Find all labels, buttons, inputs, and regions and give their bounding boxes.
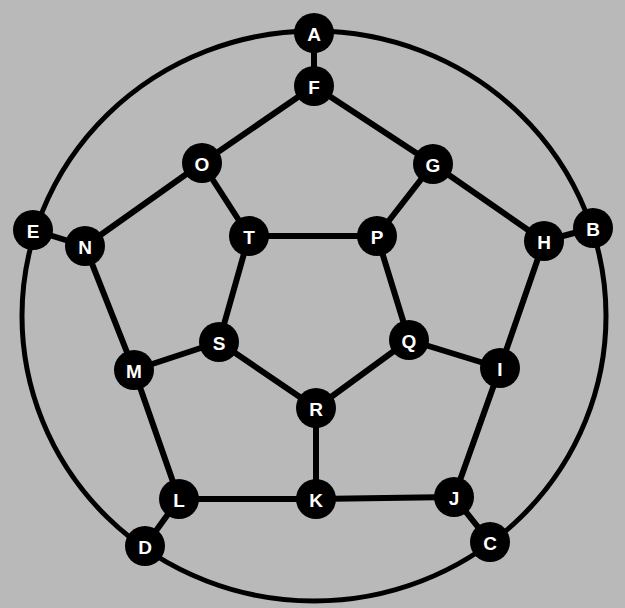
node-label: S xyxy=(213,333,226,354)
node-k: K xyxy=(296,479,336,519)
edge-l-m xyxy=(134,370,179,499)
node-label: C xyxy=(483,533,497,554)
node-h: H xyxy=(524,221,564,261)
node-label: G xyxy=(426,155,441,176)
node-label: Q xyxy=(402,331,417,352)
node-n: N xyxy=(65,226,105,266)
node-q: Q xyxy=(389,320,429,360)
node-label: J xyxy=(449,488,460,509)
node-label: O xyxy=(195,154,210,175)
node-o: O xyxy=(182,143,222,183)
edge-h-i xyxy=(500,241,544,368)
edge-f-g xyxy=(314,86,433,164)
edge-o-f xyxy=(202,86,314,163)
node-label: N xyxy=(78,237,92,258)
node-i: I xyxy=(480,348,520,388)
node-j: J xyxy=(434,477,474,517)
node-l: L xyxy=(159,479,199,519)
node-label: M xyxy=(126,361,142,382)
node-label: T xyxy=(243,227,255,248)
node-g: G xyxy=(413,144,453,184)
node-a: A xyxy=(294,13,334,53)
edge-i-j xyxy=(454,368,500,497)
node-label: A xyxy=(307,24,321,45)
edge-g-h xyxy=(433,164,544,241)
node-p: P xyxy=(357,216,397,256)
node-s: S xyxy=(199,322,239,362)
node-label: R xyxy=(309,399,323,420)
node-label: P xyxy=(371,227,384,248)
node-label: I xyxy=(497,359,502,380)
node-label: F xyxy=(308,77,320,98)
node-r: R xyxy=(296,388,336,428)
node-e: E xyxy=(13,210,53,250)
node-label: L xyxy=(173,490,185,511)
dodecahedron-graph: ABCDEFGHIJKLMNOPQRST xyxy=(0,0,625,608)
node-m: M xyxy=(114,350,154,390)
node-c: C xyxy=(470,522,510,562)
node-t: T xyxy=(229,216,269,256)
node-label: H xyxy=(537,232,551,253)
node-label: D xyxy=(138,537,152,558)
node-label: K xyxy=(309,490,323,511)
node-label: B xyxy=(586,219,600,240)
edge-n-o xyxy=(85,163,202,246)
node-label: E xyxy=(27,221,40,242)
edge-j-k xyxy=(316,497,454,499)
node-f: F xyxy=(294,66,334,106)
node-b: B xyxy=(573,208,613,248)
edges-group xyxy=(33,33,593,546)
node-d: D xyxy=(125,526,165,566)
